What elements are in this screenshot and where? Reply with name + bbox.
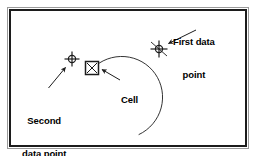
first-data-point-label: First data point [173,14,215,102]
second-data-point-marker [65,52,80,67]
cell-label-line1: Cell [121,94,138,105]
first-data-point-label-line1: First data [173,36,215,47]
second-data-point-leader [49,68,66,89]
cell-marker [86,62,99,75]
second-data-point-label-line1: Second [22,115,66,126]
cell-label: Cell [121,72,138,127]
first-data-point-label-line2: point [173,69,215,80]
second-data-point-label: Second data point [22,93,66,156]
cell-leader [102,70,120,81]
figure-root: First data point Second data point Cell [0,0,256,156]
first-data-point-marker [151,41,168,58]
second-data-point-label-line2: data point [22,148,66,156]
